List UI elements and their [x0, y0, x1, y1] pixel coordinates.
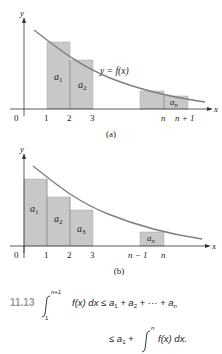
x-axis-label: x	[213, 104, 218, 114]
caption-b: (b)	[114, 266, 125, 276]
equation-line-2-prefix: ≤ a1 +	[109, 333, 134, 345]
y-axis-label: y	[19, 8, 24, 18]
x-axis-arrow-b	[205, 244, 211, 248]
upper-limit-2: n	[151, 325, 155, 331]
tick-n-plus-1: n + 1	[175, 113, 195, 123]
upper-limit-1: n+1	[51, 289, 61, 295]
integral-sign-2	[142, 331, 150, 352]
tick-3: 3	[90, 113, 95, 123]
caption-a: (a)	[106, 129, 116, 139]
tick-2: 2	[67, 113, 72, 123]
x-axis-arrow	[207, 107, 213, 111]
tick-b-3: 3	[90, 250, 95, 260]
tick-b-0: 0	[14, 250, 19, 260]
figure-b	[10, 153, 211, 253]
figure-canvas: y x y = f(x) a1 a2 an 0 1 2 3 n n + 1 (a…	[0, 0, 222, 354]
y-axis-label-b: y	[19, 144, 24, 154]
x-axis-label-b: x	[211, 241, 216, 251]
equation-line-1: f(x) dx ≤ a1 + a2 + ··· + an	[72, 297, 177, 309]
tick-0: 0	[14, 113, 19, 123]
equation-number: 11.13	[10, 297, 35, 308]
tick-b-1: 1	[44, 250, 49, 260]
tick-b-n-minus-1: n − 1	[128, 250, 148, 260]
tick-1: 1	[44, 113, 49, 123]
tick-b-2: 2	[67, 250, 72, 260]
curve-label: y = f(x)	[99, 66, 129, 77]
equation-line-2-integrand: f(x) dx.	[158, 333, 187, 344]
lower-limit-1: 1	[45, 315, 49, 321]
integral-sign-1	[42, 296, 50, 317]
tick-n: n	[161, 113, 166, 123]
tick-b-n: n	[161, 250, 166, 260]
